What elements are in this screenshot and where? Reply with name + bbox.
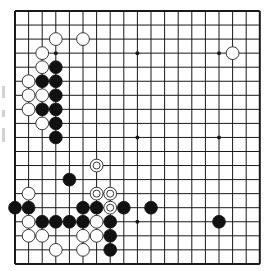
white-stone[interactable] [77,243,90,256]
black-stone[interactable] [36,75,49,88]
black-stone[interactable] [63,173,76,186]
white-stone-marked[interactable] [90,187,103,200]
white-stone[interactable] [22,229,35,242]
margin-text-fragment [2,128,5,142]
black-stone[interactable] [104,243,117,256]
black-stone[interactable] [49,131,62,144]
black-stone[interactable] [77,201,90,214]
white-stone[interactable] [36,61,49,74]
white-stone-marked[interactable] [104,187,117,200]
star-point [135,135,139,139]
white-stone[interactable] [36,47,49,60]
black-stone[interactable] [49,215,62,228]
star-point [135,51,139,55]
star-point [217,51,221,55]
white-stone[interactable] [36,89,49,102]
star-point [54,51,58,55]
white-stone-marked[interactable] [104,201,117,214]
white-stone[interactable] [49,33,62,46]
black-stone[interactable] [9,201,22,214]
white-stone-marked[interactable] [90,159,103,172]
black-stone[interactable] [49,75,62,88]
margin-text-fragment [2,86,5,98]
black-stone[interactable] [36,215,49,228]
black-stone[interactable] [213,215,226,228]
white-stone[interactable] [36,229,49,242]
white-stone[interactable] [22,187,35,200]
black-stone[interactable] [63,215,76,228]
margin-text-fragment [2,110,5,117]
black-stone[interactable] [77,215,90,228]
white-stone[interactable] [22,215,35,228]
black-stone[interactable] [22,201,35,214]
black-stone[interactable] [36,103,49,116]
white-stone[interactable] [77,33,90,46]
white-stone[interactable] [22,75,35,88]
black-stone[interactable] [90,201,103,214]
go-board[interactable] [0,0,265,271]
white-stone[interactable] [22,103,35,116]
white-stone[interactable] [49,243,62,256]
white-stone[interactable] [90,229,103,242]
black-stone[interactable] [49,117,62,130]
black-stone[interactable] [145,201,158,214]
black-stone[interactable] [117,201,130,214]
white-stone[interactable] [226,47,239,60]
white-stone[interactable] [22,89,35,102]
black-stone[interactable] [49,89,62,102]
white-stone[interactable] [36,117,49,130]
black-stone[interactable] [49,61,62,74]
star-point [135,220,139,224]
black-stone[interactable] [104,215,117,228]
black-stone[interactable] [49,103,62,116]
star-point [217,135,221,139]
black-stone[interactable] [104,229,117,242]
white-stone[interactable] [90,215,103,228]
white-stone[interactable] [77,229,90,242]
